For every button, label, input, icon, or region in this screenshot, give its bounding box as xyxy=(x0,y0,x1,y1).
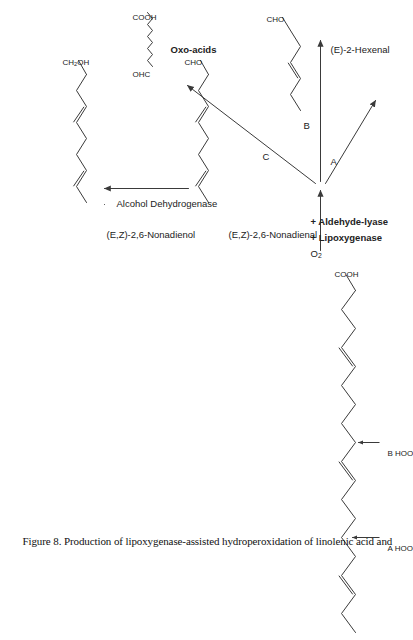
molecule-nonadienol xyxy=(73,60,86,202)
oxygen-subscript: 2 xyxy=(317,252,321,259)
hydroperoxide-b-group: HOO xyxy=(395,448,413,457)
molecule-linolenic-acid xyxy=(339,275,355,632)
branch-label-b: B xyxy=(303,120,309,130)
oxygen-symbol: O xyxy=(310,247,317,258)
branch-label-a: A xyxy=(330,156,336,166)
label-nonadienal-cho: CHO xyxy=(184,58,202,66)
figure-caption: Figure 8. Production of lipoxygenase-ass… xyxy=(22,534,392,546)
label-nonadienol-name: (E,Z)-2,6-Nonadienol xyxy=(106,229,195,239)
label-substrate-cooh: COOH xyxy=(334,270,358,278)
nonadienol-terminal-base: CH xyxy=(62,57,74,66)
hydroperoxide-a-group: HOO xyxy=(394,543,412,552)
label-hexenal-cho: CHO xyxy=(266,15,284,23)
molecule-nonadienal xyxy=(195,60,208,202)
nonadienol-terminal-tail: OH xyxy=(77,57,89,66)
hydroperoxide-b-tag: B xyxy=(387,448,392,457)
label-enzyme-lipoxygenase: + Lipoxygenase xyxy=(310,232,382,242)
branch-arrow-a xyxy=(325,100,375,183)
label-alcohol-dehydrogenase: Alcohol Dehydrogenase xyxy=(116,198,217,208)
molecule-hexenal xyxy=(282,17,300,110)
label-hexenal-name: (E)-2-Hexenal xyxy=(330,44,389,54)
label-oxoacids-formula-right: COOH xyxy=(132,13,156,21)
label-nonadienol-ch2oh: CH2OH xyxy=(62,58,89,67)
branch-label-c: C xyxy=(262,151,269,161)
label-oxygen-reagent: O2 xyxy=(310,248,321,259)
label-oxoacids-formula-left: OHC xyxy=(132,70,150,78)
label-nonadienal-name: (E,Z)-2,6-Nonadienal xyxy=(228,229,317,239)
label-enzyme-aldehyde-lyase: + Aldehyde-lyase xyxy=(310,216,388,226)
label-oxoacids-name: Oxo-acids xyxy=(170,44,216,54)
label-hydroperoxide-b: B HOO xyxy=(387,449,413,457)
